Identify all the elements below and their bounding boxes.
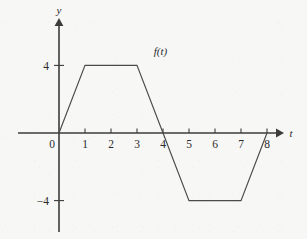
x-axis-arrowhead	[276, 129, 284, 138]
curve-annotation-label: f(t)	[154, 45, 168, 58]
x-tick-label: 3	[134, 138, 140, 150]
x-tick-label: 7	[238, 138, 244, 150]
y-tick-label: −4	[37, 195, 49, 207]
function-graph-figure: 012345678 4−4 t y f(t)	[0, 0, 307, 239]
y-tick-label: 4	[43, 60, 49, 72]
y-axis-label: y	[56, 4, 62, 16]
origin-label: 0	[49, 138, 55, 150]
x-tick-label: 2	[108, 138, 114, 150]
y-axis-arrowhead	[55, 18, 64, 26]
plot-area: 012345678 4−4 t y f(t)	[0, 0, 307, 239]
x-axis-label: t	[289, 127, 293, 139]
x-axis-tick-labels: 012345678	[49, 138, 270, 150]
x-tick-label: 5	[186, 138, 192, 150]
x-tick-label: 6	[212, 138, 218, 150]
x-tick-label: 1	[82, 138, 88, 150]
